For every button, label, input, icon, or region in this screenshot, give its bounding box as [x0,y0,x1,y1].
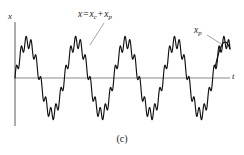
leader-line-total-response [90,23,104,45]
leader-lines-group [90,23,223,45]
figure-container: x t x=xc+xp xp (c) [0,0,244,155]
total-response-equals: = [82,9,89,19]
total-response-term2-sub: p [108,13,111,20]
vibration-response-plot [0,0,244,155]
particular-solution-sub: p [198,29,201,36]
particular-solution-annotation: xp [194,26,202,36]
total-response-term1-sub: c [94,13,97,20]
y-axis-label: x [8,12,12,21]
leader-line-particular-solution [207,35,223,45]
figure-caption: (c) [0,133,244,144]
total-response-annotation: x=xc+xp [78,10,112,20]
x-axis-label: t [232,72,235,81]
